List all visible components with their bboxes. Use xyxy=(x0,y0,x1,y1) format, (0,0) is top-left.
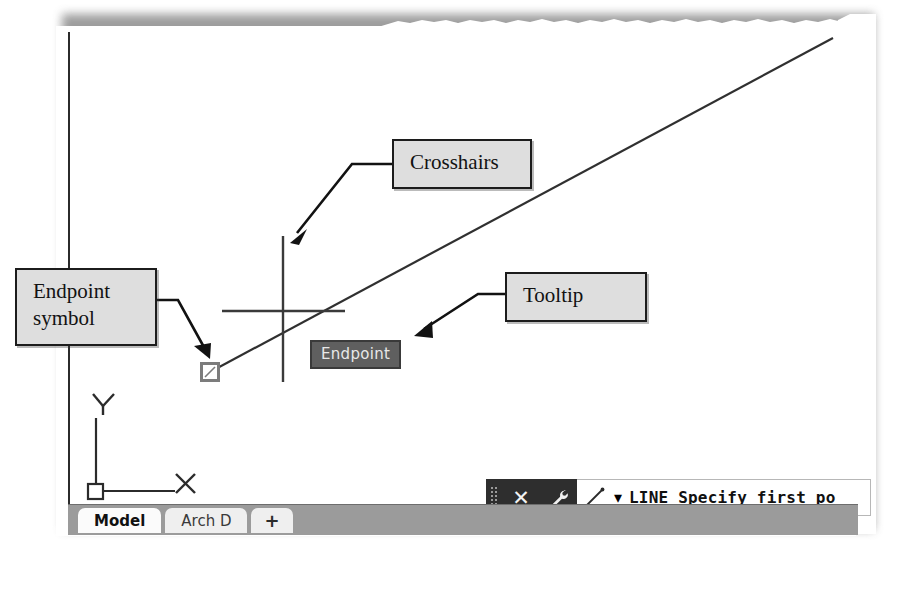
tab-arch-d[interactable]: Arch D xyxy=(165,508,247,533)
add-layout-tab-button[interactable]: + xyxy=(251,508,292,533)
endpoint-tooltip: Endpoint xyxy=(310,340,401,369)
figure-page: Endpoint Crosshairs Endpoint symbol Tool… xyxy=(0,0,897,589)
callout-crosshairs: Crosshairs xyxy=(392,139,532,189)
callout-tooltip: Tooltip xyxy=(505,272,647,322)
endpoint-snap-tick-icon xyxy=(204,366,216,378)
layout-tab-strip: Model Arch D + xyxy=(78,508,293,533)
drawing-canvas[interactable] xyxy=(68,32,858,504)
tab-model[interactable]: Model xyxy=(78,508,161,533)
callout-endpoint-symbol: Endpoint symbol xyxy=(15,268,157,346)
